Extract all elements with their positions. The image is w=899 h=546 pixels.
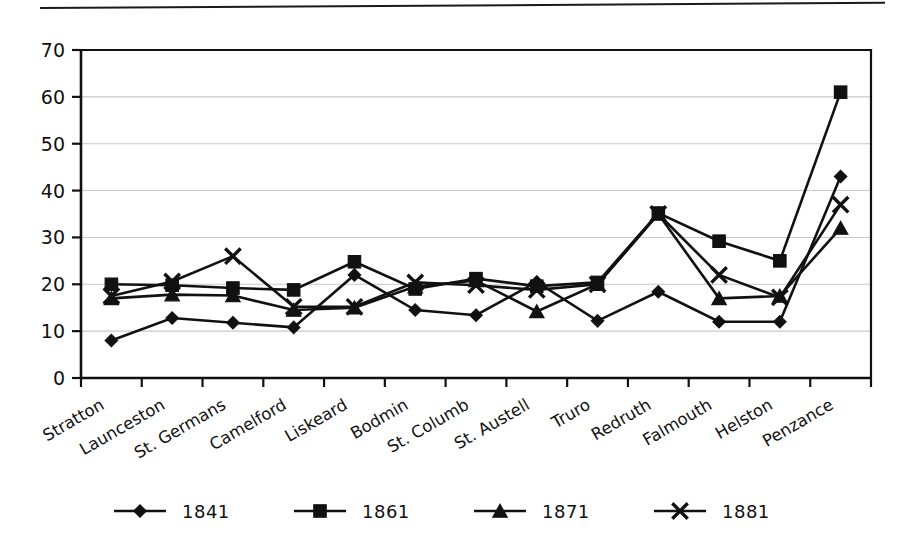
marker-diamond (227, 317, 239, 329)
marker-square (348, 256, 360, 268)
marker-diamond (470, 309, 482, 321)
x-tick-label: Liskeard (282, 395, 351, 446)
marker-x (833, 197, 848, 212)
y-tick-label: 20 (41, 273, 65, 295)
marker-x (225, 248, 240, 263)
legend-item-1881[interactable]: 1881 (654, 501, 770, 522)
marker-square (834, 86, 846, 98)
x-axis-labels: StrattonLauncestonSt. GermansCamelfordLi… (40, 395, 837, 463)
legend-label: 1881 (722, 501, 770, 522)
legend-item-1861[interactable]: 1861 (294, 501, 410, 522)
marker-square (713, 235, 725, 247)
x-tick-label: Falmouth (640, 395, 716, 450)
legend-label: 1841 (182, 501, 230, 522)
chart-figure: 010203040506070StrattonLauncestonSt. Ger… (0, 0, 899, 546)
y-axis: 010203040506070 (41, 39, 81, 389)
marker-triangle (530, 305, 544, 318)
y-tick-label: 50 (41, 133, 65, 155)
marker-diamond (591, 315, 603, 327)
marker-diamond (713, 316, 725, 328)
plot-border (81, 50, 871, 378)
marker-x (711, 267, 726, 282)
marker-square (774, 255, 786, 267)
marker-square (314, 505, 326, 517)
marker-square (105, 278, 117, 290)
y-tick-label: 60 (41, 86, 65, 108)
y-tick-label: 40 (41, 180, 65, 202)
x-axis-ticks (81, 378, 871, 387)
marker-diamond (409, 304, 421, 316)
marker-diamond (774, 316, 786, 328)
marker-diamond (834, 170, 846, 182)
legend-item-1841[interactable]: 1841 (114, 501, 230, 522)
marker-square (287, 284, 299, 296)
line-chart: 010203040506070StrattonLauncestonSt. Ger… (0, 0, 899, 546)
plot-frame (81, 50, 871, 378)
marker-diamond (105, 334, 117, 346)
legend-item-1871[interactable]: 1871 (474, 501, 590, 522)
y-tick-label: 0 (53, 367, 65, 389)
series-line (111, 205, 840, 307)
legend-label: 1861 (362, 501, 410, 522)
legend: 1841186118711881 (114, 501, 770, 522)
marker-triangle (833, 221, 847, 234)
marker-diamond (134, 505, 146, 517)
legend-label: 1871 (542, 501, 590, 522)
marker-diamond (166, 312, 178, 324)
y-tick-label: 30 (41, 226, 65, 248)
series-group (104, 86, 849, 347)
y-tick-label: 70 (41, 39, 65, 61)
gridlines (81, 50, 871, 331)
axes (81, 50, 871, 378)
x-tick-label: Truro (547, 395, 593, 433)
y-tick-label: 10 (41, 320, 65, 342)
series-line (111, 214, 840, 311)
series-1841 (105, 170, 847, 346)
marker-diamond (652, 286, 664, 298)
